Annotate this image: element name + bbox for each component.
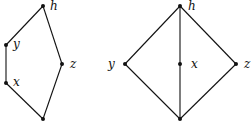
node-y (4, 43, 8, 47)
node-label-h: h (50, 0, 58, 13)
node-x (4, 81, 8, 85)
edge-h-y (125, 6, 180, 64)
node-z (60, 62, 64, 66)
node-y (123, 62, 127, 66)
edge-h-z (180, 6, 236, 64)
edge-bottom-z (43, 64, 62, 119)
node-h (178, 4, 182, 8)
node-label-x: x (13, 75, 20, 89)
node-label-z: z (243, 57, 251, 71)
edge-y-bottom (125, 64, 180, 119)
lattice-diagrams: hyxzhyxz (0, 0, 252, 128)
node-label-h: h (188, 0, 196, 13)
node-x (178, 62, 182, 66)
pentagon-lattice: hyxz (4, 0, 77, 121)
diamond-lattice: hyxz (107, 0, 251, 121)
node-label-y: y (12, 37, 20, 51)
edge-h-y (6, 6, 43, 45)
node-h (41, 4, 45, 8)
node-bottom (178, 117, 182, 121)
node-label-y: y (107, 57, 115, 71)
node-label-x: x (191, 57, 198, 71)
node-z (234, 62, 238, 66)
edge-z-bottom (180, 64, 236, 119)
edge-z-h (43, 6, 62, 64)
node-bottom (41, 117, 45, 121)
node-label-z: z (69, 57, 77, 71)
edge-x-bottom (6, 83, 43, 119)
